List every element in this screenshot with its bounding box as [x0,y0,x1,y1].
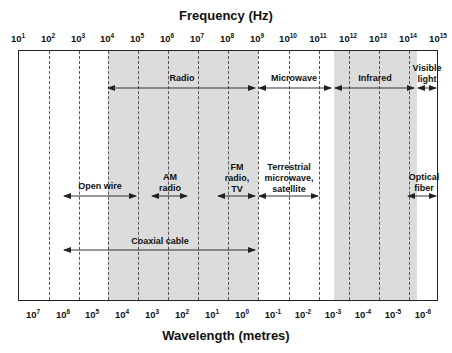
bottom-tick: 104 [115,308,129,320]
bottom-tick: 106 [56,308,70,320]
bottom-tick: 105 [85,308,99,320]
open-wire-label: Open wire [78,181,122,192]
bottom-tick: 10-3 [325,308,341,320]
bottom-tick: 10-5 [385,308,401,320]
bottom-tick: 10-1 [265,308,281,320]
am-radio-label: AMradio [159,172,181,194]
coaxial-cable-label: Coaxial cable [131,236,189,247]
bottom-tick: 107 [26,308,40,320]
microwave-label: Microwave [271,73,317,84]
bottom-tick: 10-2 [295,308,311,320]
radio-label: Radio [169,73,194,84]
wavelength-axis-title: Wavelength (metres) [0,328,452,343]
bottom-tick: 100 [235,308,249,320]
optical-fiber-label: Opticalfiber [409,172,440,194]
fm-radio-tv-label: FMradio,TV [225,162,250,195]
bottom-tick: 10-4 [355,308,371,320]
infrared-label: Infrared [358,73,392,84]
terrestrial-microwave-label: Terrestrialmicrowave,satellite [264,162,313,195]
bottom-tick: 103 [145,308,159,320]
visible-light-label: Visiblelight [413,63,442,85]
bottom-tick: 101 [205,308,219,320]
bottom-tick: 102 [175,308,189,320]
bottom-tick: 10-6 [415,308,431,320]
